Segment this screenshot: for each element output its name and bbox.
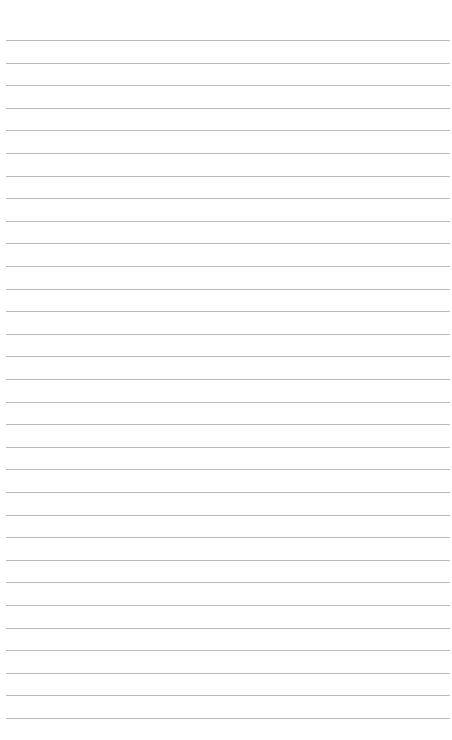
ruled-line bbox=[6, 379, 450, 380]
ruled-line bbox=[6, 40, 450, 41]
ruled-line bbox=[6, 469, 450, 470]
ruled-line bbox=[6, 176, 450, 177]
ruled-line bbox=[6, 153, 450, 154]
ruled-line bbox=[6, 628, 450, 629]
ruled-line bbox=[6, 402, 450, 403]
ruled-line bbox=[6, 605, 450, 606]
ruled-line bbox=[6, 243, 450, 244]
ruled-line bbox=[6, 537, 450, 538]
ruled-line bbox=[6, 582, 450, 583]
ruled-line bbox=[6, 356, 450, 357]
ruled-line bbox=[6, 718, 450, 719]
ruled-line bbox=[6, 198, 450, 199]
ruled-line bbox=[6, 63, 450, 64]
ruled-line bbox=[6, 221, 450, 222]
ruled-line bbox=[6, 85, 450, 86]
ruled-line bbox=[6, 311, 450, 312]
ruled-line bbox=[6, 424, 450, 425]
ruled-line bbox=[6, 447, 450, 448]
ruled-line bbox=[6, 515, 450, 516]
ruled-line bbox=[6, 289, 450, 290]
ruled-line bbox=[6, 650, 450, 651]
ruled-line bbox=[6, 108, 450, 109]
ruled-line bbox=[6, 334, 450, 335]
ruled-line bbox=[6, 695, 450, 696]
ruled-line bbox=[6, 673, 450, 674]
lined-paper-page bbox=[0, 0, 452, 740]
ruled-line bbox=[6, 266, 450, 267]
ruled-line bbox=[6, 492, 450, 493]
ruled-line bbox=[6, 560, 450, 561]
ruled-line bbox=[6, 130, 450, 131]
